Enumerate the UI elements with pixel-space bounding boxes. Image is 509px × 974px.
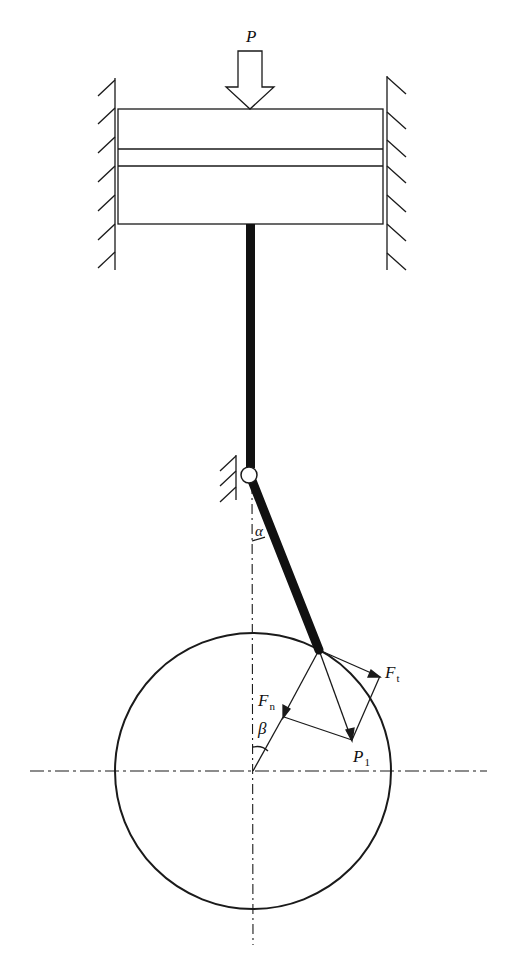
label-P1: P1 xyxy=(353,748,370,765)
connecting-rod xyxy=(251,478,319,650)
mechanism-diagram xyxy=(0,0,509,974)
vertical-centerline xyxy=(252,484,253,945)
piston xyxy=(118,109,383,224)
P1-vector xyxy=(319,650,351,738)
left-cylinder-wall xyxy=(98,78,115,270)
label-P: P xyxy=(246,28,256,45)
label-beta: β xyxy=(258,720,266,737)
crosshead-guide xyxy=(220,455,236,502)
right-cylinder-wall xyxy=(387,76,406,270)
piston-rod xyxy=(246,224,255,468)
pin-joint xyxy=(241,467,257,483)
label-Ft: Ft xyxy=(385,664,399,681)
label-Fn: Fn xyxy=(258,692,275,709)
label-alpha: α xyxy=(255,524,263,539)
load-arrow-P xyxy=(226,51,274,109)
Fn-vector xyxy=(284,650,319,715)
force-vectors xyxy=(283,650,380,741)
